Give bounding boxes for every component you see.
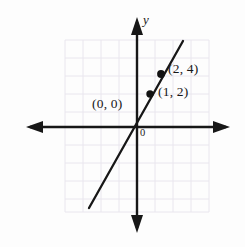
- coordinate-plane-figure: (0, 0) (1, 2) (2, 4) y 0: [0, 0, 245, 247]
- data-point-label-0-0: (0, 0): [92, 96, 122, 112]
- x-axis-left-arrowhead: [26, 121, 43, 133]
- y-axis-top-arrowhead: [131, 17, 143, 35]
- x-axis-right-arrowhead: [213, 121, 230, 133]
- data-point-label-1-2: (1, 2): [158, 84, 188, 100]
- y-axis-bottom-arrowhead: [131, 215, 143, 233]
- x-axis: [26, 121, 230, 133]
- origin-label: 0: [140, 127, 145, 138]
- data-point-label-2-4: (2, 4): [168, 61, 198, 77]
- data-point-marker-2-4: [157, 70, 165, 78]
- plot-canvas: [0, 0, 245, 247]
- data-point-marker-1-2: [146, 90, 153, 97]
- y-axis-label: y: [143, 12, 149, 28]
